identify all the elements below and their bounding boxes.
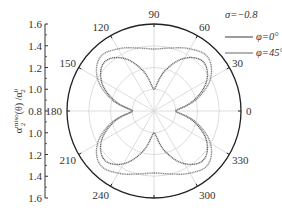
angle-label-180: 180 <box>46 105 63 117</box>
angle-tick-120 <box>111 36 113 39</box>
polar-chart: 0306090120150180210240300330 1.61.41.21.… <box>0 0 282 214</box>
angle-label-210: 210 <box>60 154 77 166</box>
left-tick-label: 1.6 <box>28 18 42 30</box>
legend-label-phi45: φ=45° <box>256 47 282 58</box>
angle-tick-330 <box>227 153 230 155</box>
angle-label-30: 30 <box>232 57 244 69</box>
angle-label-120: 120 <box>93 21 110 33</box>
angle-tick-60 <box>196 36 198 39</box>
legend-label-phi0: φ=0° <box>256 31 279 42</box>
angle-tick-labels: 0306090120150180210240300330 <box>46 8 253 201</box>
left-tick-label: 1.6 <box>28 192 42 204</box>
left-tick-label: 1.2 <box>28 62 42 74</box>
left-tick-label: 1.0 <box>28 127 42 139</box>
left-tick-label: 1.2 <box>28 149 42 161</box>
angle-tick-30 <box>227 68 230 70</box>
angle-label-300: 300 <box>199 189 216 201</box>
angle-label-240: 240 <box>93 189 110 201</box>
angle-label-330: 330 <box>232 154 249 166</box>
left-tick-label: 1.4 <box>28 170 42 182</box>
angle-label-90: 90 <box>149 8 161 20</box>
angle-tick-240 <box>111 184 113 187</box>
angle-label-0: 0 <box>246 105 252 117</box>
angle-tick-150 <box>79 68 82 70</box>
polar-grid <box>67 24 241 198</box>
left-tick-label: 0.8 <box>28 105 42 117</box>
y-axis-label: αmiso2 (θ) /α02 <box>12 88 27 133</box>
y-axis-label-text: αmiso2 (θ) /α02 <box>12 88 27 133</box>
angle-label-60: 60 <box>199 21 211 33</box>
angle-tick-210 <box>79 153 82 155</box>
angle-tick-300 <box>196 184 198 187</box>
left-tick-label: 1.0 <box>28 83 42 95</box>
left-tick-label: 1.4 <box>28 40 42 52</box>
annotation-sigma: σ=−0.8 <box>225 9 258 20</box>
angle-label-150: 150 <box>60 57 77 69</box>
radial-axis-left: 1.61.41.21.00.81.01.21.41.6 <box>28 18 48 204</box>
legend: σ=−0.8 φ=0° φ=45° <box>225 9 282 58</box>
